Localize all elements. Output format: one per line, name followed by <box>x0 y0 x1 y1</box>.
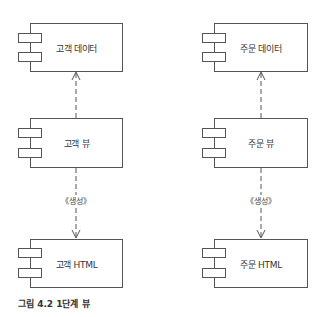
component-label: 고객 HTML <box>31 257 122 270</box>
component-label: 주문 뷰 <box>215 137 307 150</box>
figure-caption: 그림 4.2 1단계 뷰 <box>18 297 90 310</box>
component-port-icon <box>18 248 42 258</box>
component-port-icon <box>202 268 226 278</box>
component-port-icon <box>18 52 42 62</box>
component-port-icon <box>202 33 226 43</box>
stereotype-label: 《생성》 <box>245 195 277 206</box>
component-label: 주문 데이터 <box>215 41 307 54</box>
component-port-icon <box>202 128 226 138</box>
component-port-icon <box>18 268 42 278</box>
component-port-icon <box>202 248 226 258</box>
component-label: 주문 HTML <box>215 257 307 270</box>
component-port-icon <box>18 128 42 138</box>
component-port-icon <box>202 148 226 158</box>
component-customer-html: 고객 HTML <box>30 239 123 288</box>
component-port-icon <box>18 33 42 43</box>
component-port-icon <box>18 148 42 158</box>
component-order-html: 주문 HTML <box>214 239 308 288</box>
component-customer-data: 고객 데이터 <box>30 23 123 72</box>
component-label: 고객 뷰 <box>31 137 122 150</box>
component-label: 고객 데이터 <box>31 41 122 54</box>
component-port-icon <box>202 52 226 62</box>
component-order-data: 주문 데이터 <box>214 23 308 72</box>
stereotype-label: 《생성》 <box>60 195 92 206</box>
component-customer-view: 고객 뷰 <box>30 118 123 168</box>
component-order-view: 주문 뷰 <box>214 118 308 168</box>
